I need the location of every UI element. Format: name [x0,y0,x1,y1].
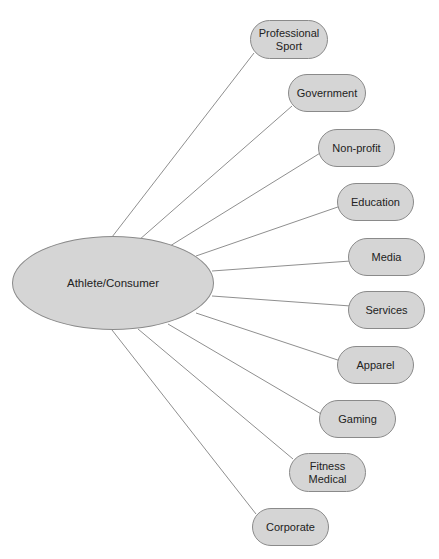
node-fitness-medical: Fitness Medical [289,453,366,492]
node-label: Gaming [338,413,377,426]
node-label: Non-profit [332,142,380,155]
node-corporate: Corporate [252,508,329,546]
connector-line [196,313,341,361]
node-professional-sport: Professional Sport [250,20,328,59]
connector-line [196,206,341,256]
connector-line [112,53,254,237]
node-government: Government [288,74,366,112]
connector-line [168,324,323,415]
connector-line [212,261,352,271]
node-label: Education [351,196,400,209]
node-label: Services [365,304,407,317]
node-media: Media [348,238,425,276]
connector-line [138,329,293,459]
connector-line [112,330,256,514]
node-label: Professional Sport [259,27,320,53]
node-education: Education [337,183,414,221]
center-node-label: Athlete/Consumer [67,277,159,289]
node-label: Fitness Medical [309,460,347,486]
connector-line [170,152,322,246]
node-non-profit: Non-profit [318,129,395,167]
node-gaming: Gaming [319,400,396,438]
node-label: Media [372,251,402,264]
node-label: Corporate [266,521,315,534]
center-node-athlete-consumer: Athlete/Consumer [12,236,214,330]
node-apparel: Apparel [337,346,414,384]
node-services: Services [348,291,425,329]
connector-line [212,296,352,306]
node-label: Government [297,87,358,100]
node-label: Apparel [357,359,395,372]
hub-spoke-diagram: Athlete/Consumer Professional SportGover… [0,0,439,559]
